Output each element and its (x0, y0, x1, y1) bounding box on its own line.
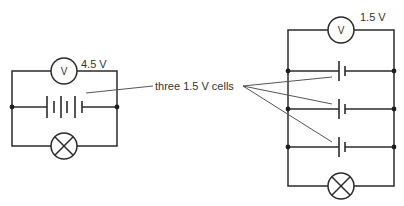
right-voltmeter-reading: 1.5 V (360, 12, 386, 23)
cell-icon (288, 137, 394, 157)
cell-icon (288, 61, 394, 81)
voltmeter-icon: V (51, 58, 77, 84)
cells-callout-label: three 1.5 V cells (155, 81, 234, 92)
right-circuit-outer-wire-right (354, 30, 394, 186)
lamp-icon (51, 133, 77, 159)
left-circuit-outer-wire-right (77, 71, 117, 146)
voltmeter-symbol: V (61, 66, 68, 77)
cell-icon (288, 99, 394, 119)
junction-dot (10, 105, 15, 110)
right-circuit-outer-wire-left (288, 30, 328, 186)
left-circuit-outer-wire-left (12, 71, 51, 146)
circuit-diagram: V V (0, 0, 404, 206)
left-voltmeter-reading: 4.5 V (81, 59, 107, 70)
battery-series-icon (47, 96, 82, 118)
left-circuit: V (10, 58, 120, 159)
junction-dot (115, 105, 120, 110)
lamp-icon (328, 173, 354, 199)
right-circuit: V (286, 17, 397, 199)
voltmeter-icon: V (328, 17, 354, 43)
voltmeter-symbol: V (338, 25, 345, 36)
